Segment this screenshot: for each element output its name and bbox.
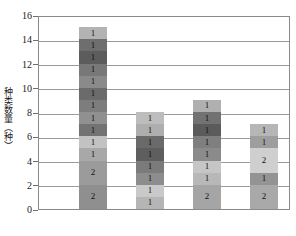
chart-root: 种类数量（种） 0246810121416 111111111112211111… <box>0 0 296 236</box>
bar-segment[interactable]: 1 <box>79 124 107 136</box>
bar-segment-label: 1 <box>205 162 210 171</box>
bar-segment[interactable]: 1 <box>79 64 107 76</box>
bar-segment[interactable]: 1 <box>79 39 107 51</box>
bar-segment-label: 1 <box>91 77 96 86</box>
bar-segment[interactable]: 1 <box>193 136 221 148</box>
bar-segment[interactable]: 2 <box>250 148 278 172</box>
y-axis-tick-label: 16 <box>12 11 32 21</box>
bar-segment[interactable]: 1 <box>136 136 164 148</box>
stacked-bar[interactable]: 11111112 <box>193 100 221 209</box>
bar-segment[interactable]: 2 <box>79 161 107 185</box>
bar-segment[interactable]: 1 <box>79 76 107 88</box>
bar-segment-label: 1 <box>148 114 153 123</box>
stacked-bar[interactable]: 11212 <box>250 124 278 209</box>
gridline <box>39 65 289 66</box>
gridline <box>39 89 289 90</box>
bar-segment-label: 1 <box>91 126 96 135</box>
bar-segment[interactable]: 1 <box>136 161 164 173</box>
plot-inner: 1111111111122111111111111111211212 <box>39 17 289 209</box>
bar-segment-label: 2 <box>205 192 210 201</box>
bar-segment-label: 1 <box>91 89 96 98</box>
bar-segment-label: 1 <box>91 65 96 74</box>
bar-segment[interactable]: 1 <box>79 27 107 39</box>
bar-segment-label: 1 <box>148 186 153 195</box>
bar-segment[interactable]: 1 <box>79 112 107 124</box>
bar-segment[interactable]: 1 <box>250 173 278 185</box>
bar-segment[interactable]: 2 <box>250 185 278 209</box>
bar-segment[interactable]: 1 <box>136 112 164 124</box>
bar-segment[interactable]: 1 <box>79 88 107 100</box>
bar-segment-label: 1 <box>91 41 96 50</box>
bar-segment-label: 2 <box>91 168 96 177</box>
bar-segment[interactable]: 1 <box>250 124 278 136</box>
bar-segment-label: 1 <box>148 198 153 207</box>
bar-segment-label: 1 <box>148 162 153 171</box>
bar-segment-label: 1 <box>91 138 96 147</box>
bar-segment[interactable]: 1 <box>136 148 164 160</box>
bar-segment-label: 1 <box>148 174 153 183</box>
bar-segment[interactable]: 1 <box>193 124 221 136</box>
bar-segment[interactable]: 1 <box>136 173 164 185</box>
bar-segment-label: 1 <box>205 126 210 135</box>
bar-segment-label: 2 <box>262 156 267 165</box>
bar-segment[interactable]: 1 <box>79 136 107 148</box>
stacked-bar[interactable]: 11111111 <box>136 112 164 209</box>
bar-segment-label: 1 <box>262 126 267 135</box>
y-axis-tick-label: 12 <box>12 60 32 70</box>
bar-segment-label: 1 <box>262 174 267 183</box>
bar-segment[interactable]: 1 <box>79 100 107 112</box>
bar-segment[interactable]: 1 <box>136 197 164 209</box>
gridline <box>39 41 289 42</box>
bar-segment[interactable]: 1 <box>79 51 107 63</box>
bar-segment-label: 2 <box>91 192 96 201</box>
y-axis-tick-label: 0 <box>12 205 32 215</box>
bar-segment[interactable]: 1 <box>193 161 221 173</box>
y-axis-tick-label: 2 <box>12 181 32 191</box>
bar-segment-label: 1 <box>205 114 210 123</box>
bar-segment[interactable]: 1 <box>250 136 278 148</box>
y-axis-tick-label: 14 <box>12 35 32 45</box>
stacked-bar[interactable]: 1111111111122 <box>79 27 107 209</box>
bar-segment[interactable]: 1 <box>193 100 221 112</box>
y-axis-tick-label: 8 <box>12 108 32 118</box>
bar-segment[interactable]: 1 <box>136 185 164 197</box>
bar-segment[interactable]: 1 <box>136 124 164 136</box>
y-axis-tick-label: 4 <box>12 157 32 167</box>
bar-segment-label: 2 <box>262 192 267 201</box>
bar-segment-label: 1 <box>91 101 96 110</box>
bar-segment[interactable]: 1 <box>193 173 221 185</box>
bar-segment-label: 1 <box>148 138 153 147</box>
bar-segment-label: 1 <box>205 138 210 147</box>
bar-segment[interactable]: 1 <box>79 148 107 160</box>
bar-segment-label: 1 <box>91 114 96 123</box>
bar-segment-label: 1 <box>205 150 210 159</box>
plot-area: 1111111111122111111111111111211212 <box>38 16 290 210</box>
bar-segment-label: 1 <box>205 101 210 110</box>
bar-segment[interactable]: 1 <box>193 112 221 124</box>
bar-segment-label: 1 <box>148 126 153 135</box>
gridline <box>39 114 289 115</box>
bar-segment[interactable]: 1 <box>193 148 221 160</box>
y-axis-tick-label: 10 <box>12 84 32 94</box>
bar-segment-label: 1 <box>91 29 96 38</box>
bar-segment-label: 1 <box>148 150 153 159</box>
bar-segment-label: 1 <box>91 53 96 62</box>
y-axis-tick-label: 6 <box>12 132 32 142</box>
bar-segment-label: 1 <box>91 150 96 159</box>
bar-segment-label: 1 <box>262 138 267 147</box>
bar-segment[interactable]: 2 <box>193 185 221 209</box>
bar-segment-label: 1 <box>205 174 210 183</box>
bar-segment[interactable]: 2 <box>79 185 107 209</box>
